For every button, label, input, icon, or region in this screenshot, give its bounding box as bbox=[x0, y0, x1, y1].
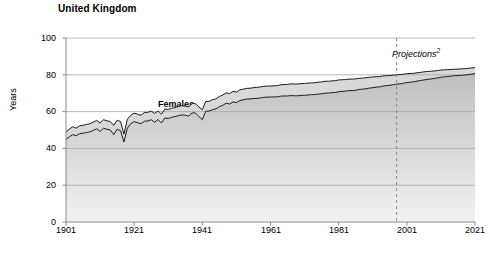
chart-root: United Kingdom Years 100 80 60 40 20 0 1… bbox=[0, 0, 490, 257]
chart-canvas bbox=[0, 0, 490, 257]
